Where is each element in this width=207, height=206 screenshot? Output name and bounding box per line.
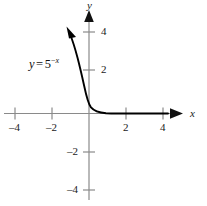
y-axis-label: y (87, 0, 92, 11)
equation-exponent: −x (51, 56, 59, 65)
graph-figure: –4 –2 2 4 4 2 –2 –4 x y y=5−x (0, 0, 207, 206)
exponential-curve (70, 34, 168, 114)
x-axis-arrowhead (170, 108, 183, 118)
y-tick-label-2: 2 (101, 64, 107, 75)
x-tick-label--4: –4 (9, 122, 20, 133)
y-axis-arrowhead (84, 10, 94, 22)
equation-equals: = (35, 57, 45, 71)
equation-exponent-var: x (55, 56, 59, 65)
x-axis-label: x (190, 108, 195, 119)
y-tick-label-4: 4 (101, 26, 107, 37)
curve-equation-label: y=5−x (29, 58, 59, 71)
curve-arrowhead (67, 27, 77, 39)
x-tick-label-4: 4 (160, 122, 166, 133)
x-tick-label--2: –2 (46, 122, 57, 133)
x-tick-label-2: 2 (123, 122, 129, 133)
y-tick-label--2: –2 (67, 146, 78, 157)
y-tick-label--4: –4 (67, 184, 78, 195)
equation-y: y (29, 57, 35, 71)
